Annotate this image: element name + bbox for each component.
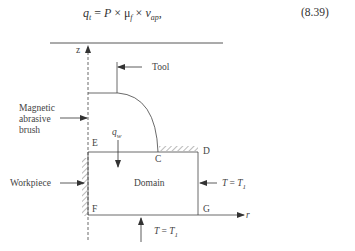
bc-right-label: T = T1 — [222, 178, 246, 193]
workpiece-label: Workpiece — [10, 178, 51, 189]
brush-label-line-3: brush — [19, 125, 40, 136]
point-d-label: D — [203, 146, 210, 157]
bc-bottom-eq: = — [162, 226, 167, 236]
domain-label: Domain — [134, 178, 165, 189]
bc-right-t: T — [222, 178, 227, 188]
z-axis-label: z — [76, 45, 80, 56]
bc-bottom-t: T — [154, 226, 159, 236]
bc-bottom-sub: 1 — [175, 231, 179, 239]
flux-sub: w — [117, 132, 122, 140]
brush-profile — [88, 93, 158, 152]
bc-right-eq: = — [230, 178, 235, 188]
tool-label: Tool — [152, 62, 169, 73]
point-f-label: F — [92, 204, 97, 215]
bc-bottom-label: T = T1 — [154, 226, 178, 241]
workpiece-hatch — [82, 158, 87, 216]
point-c-label: C — [155, 154, 161, 165]
brush-label-line-1: Magnetic — [19, 103, 55, 114]
surface-hatch-cd — [159, 146, 198, 151]
brush-label-line-2: abrasive — [19, 114, 51, 125]
point-e-label: E — [92, 138, 98, 149]
bc-right-sub: 1 — [243, 183, 247, 191]
point-g-label: G — [203, 204, 210, 215]
r-axis-label: r — [246, 210, 250, 221]
diagram-canvas — [0, 0, 355, 251]
flux-label: qw — [112, 127, 121, 142]
